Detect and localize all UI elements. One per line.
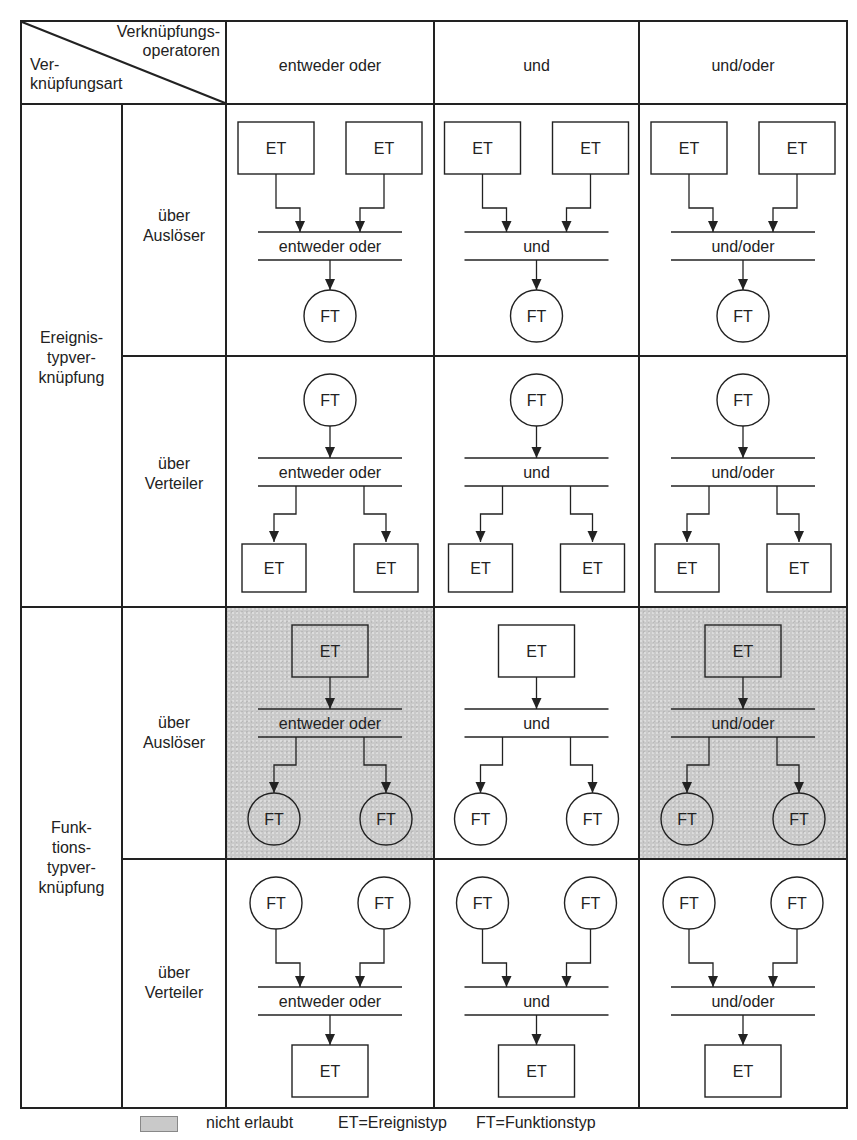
svg-text:und: und [523,464,550,481]
svg-text:FT: FT [787,895,807,912]
svg-text:ET: ET [264,560,285,577]
event-type-box: ET [759,122,835,174]
event-type-box: ET [561,544,625,592]
function-type-circle: FT [511,374,563,426]
diagram-r1-c0: FTentweder oderETET [227,356,433,606]
row-label-ereignis-ausloeser: über Auslöser [123,206,225,246]
event-type-box: ET [242,544,306,592]
svg-text:ET: ET [580,140,601,157]
legend-ft: FT=Funktionstyp [476,1114,596,1132]
function-type-circle: FT [773,793,825,845]
svg-text:ET: ET [376,560,397,577]
function-type-circle: FT [304,374,356,426]
svg-text:ET: ET [374,140,395,157]
event-type-box: ET [346,122,422,174]
svg-text:FT: FT [376,811,396,828]
svg-text:ET: ET [733,1063,754,1080]
svg-text:FT: FT [789,811,809,828]
event-type-box: ET [553,122,629,174]
svg-text:und/oder: und/oder [711,238,775,255]
legend-swatch-not-allowed [140,1116,178,1132]
event-type-box: ET [354,544,418,592]
row-label-funktion-ausloeser: über Auslöser [123,713,225,753]
svg-text:FT: FT [471,811,491,828]
svg-text:FT: FT [266,895,286,912]
row-label-ereignis-verteiler: über Verteiler [123,454,225,494]
diagram-r0-c0: ETETentweder oderFT [227,104,433,355]
event-type-box: ET [655,544,719,592]
svg-text:ET: ET [320,643,341,660]
svg-text:FT: FT [583,811,603,828]
event-type-box: ET [767,544,831,592]
diagram-r2-c2: ETund/oderFTFT [640,607,846,858]
svg-text:FT: FT [581,895,601,912]
svg-text:ET: ET [266,140,287,157]
function-type-circle: FT [663,877,715,929]
svg-text:und: und [523,993,550,1010]
function-type-circle: FT [661,793,713,845]
svg-text:FT: FT [264,811,284,828]
svg-text:und/oder: und/oder [711,993,775,1010]
corner-label-type: Ver- knüpfungsart [30,55,150,93]
event-type-box: ET [292,1045,368,1097]
row-label-funktion-verteiler: über Verteiler [123,963,225,1003]
event-type-box: ET [445,122,521,174]
function-type-circle: FT [455,793,507,845]
diagram-r0-c2: ETETund/oderFT [640,104,846,355]
svg-text:und: und [523,715,550,732]
svg-text:ET: ET [526,643,547,660]
svg-text:entweder oder: entweder oder [279,238,382,255]
diagram-r2-c1: ETundFTFT [435,607,638,858]
event-type-box: ET [238,122,314,174]
event-type-box: ET [292,625,368,677]
diagram-r2-c0: ETentweder oderFTFT [227,607,433,858]
svg-text:FT: FT [679,895,699,912]
svg-text:ET: ET [582,560,603,577]
svg-text:FT: FT [733,308,753,325]
svg-text:ET: ET [677,560,698,577]
diagram-r3-c2: FTFTund/oderET [640,859,846,1107]
diagram-r1-c1: FTundETET [435,356,638,606]
svg-text:entweder oder: entweder oder [279,715,382,732]
event-type-box: ET [499,1045,575,1097]
svg-text:FT: FT [527,392,547,409]
function-type-circle: FT [567,793,619,845]
column-header-entweder-oder: entweder oder [227,56,433,76]
diagram-r1-c2: FTund/oderETET [640,356,846,606]
svg-text:ET: ET [787,140,808,157]
svg-text:entweder oder: entweder oder [279,464,382,481]
svg-text:FT: FT [733,392,753,409]
function-type-circle: FT [771,877,823,929]
legend-et: ET=Ereignistyp [338,1114,447,1132]
column-header-und-oder: und/oder [640,56,846,76]
svg-text:ET: ET [320,1063,341,1080]
event-type-box: ET [705,1045,781,1097]
svg-text:ET: ET [733,643,754,660]
group-label-funktionstypverknuepfung: Funk- tions- typver- knüpfung [22,818,121,898]
event-type-box: ET [499,625,575,677]
group-label-ereignistypverknuepfung: Ereignis- typver- knüpfung [22,328,121,388]
svg-text:ET: ET [472,140,493,157]
function-type-circle: FT [304,290,356,342]
function-type-circle: FT [457,877,509,929]
function-type-circle: FT [248,793,300,845]
svg-text:FT: FT [677,811,697,828]
svg-text:ET: ET [526,1063,547,1080]
function-type-circle: FT [717,290,769,342]
function-type-circle: FT [358,877,410,929]
event-type-box: ET [705,625,781,677]
event-type-box: ET [651,122,727,174]
svg-text:und/oder: und/oder [711,464,775,481]
function-type-circle: FT [360,793,412,845]
legend-not-allowed: nicht erlaubt [206,1114,293,1132]
svg-text:entweder oder: entweder oder [279,993,382,1010]
svg-text:und/oder: und/oder [711,715,775,732]
svg-text:ET: ET [470,560,491,577]
svg-text:FT: FT [473,895,493,912]
function-type-circle: FT [565,877,617,929]
function-type-circle: FT [511,290,563,342]
function-type-circle: FT [250,877,302,929]
svg-text:ET: ET [789,560,810,577]
function-type-circle: FT [717,374,769,426]
column-header-und: und [435,56,638,76]
